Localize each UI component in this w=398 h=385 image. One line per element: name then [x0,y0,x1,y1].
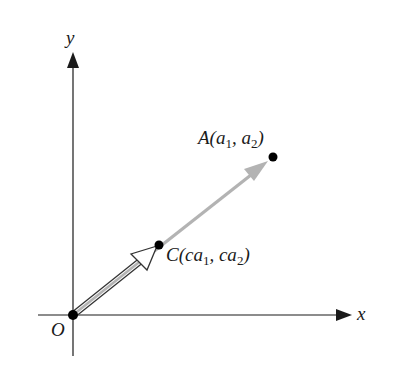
diagram-svg: y x O A(a1, a2) C(ca1, ca2) [0,0,398,385]
origin-label: O [51,319,65,340]
y-axis-label: y [64,27,75,48]
vector-oc [73,246,157,315]
point-a [269,153,278,162]
y-axis-arrowhead-icon [67,52,79,68]
x-axis-arrowhead-icon [336,309,352,321]
point-c-label: C(ca1, ca2) [166,244,250,268]
point-o [68,310,78,320]
x-axis [38,309,352,321]
point-a-label: A(a1, a2) [196,127,264,151]
vector-diagram: y x O A(a1, a2) C(ca1, ca2) [0,0,398,385]
x-axis-label: x [356,303,366,324]
point-c [155,241,164,250]
